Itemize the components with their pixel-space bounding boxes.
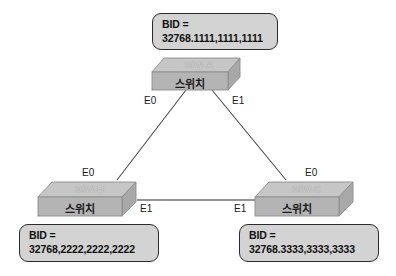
bid-value-a: 32768.1111,1111,1111 — [162, 32, 269, 46]
bid-label-a: BID = — [162, 18, 269, 32]
bid-box-switch-a: BID = 32768.1111,1111,1111 — [152, 13, 278, 50]
port-label-a-e1: E1 — [232, 95, 244, 106]
switch-c[interactable]: S/W-C 스위치 — [253, 180, 355, 220]
bid-box-switch-c: BID = 32768.3333,3333,3333 — [239, 224, 379, 262]
switch-c-front-label: 스위치 — [255, 200, 339, 216]
bid-box-switch-b: BID = 32768,2222,2222,2222 — [19, 224, 159, 262]
switch-a[interactable]: S/W-A 스위치 — [150, 56, 242, 94]
port-label-c-e0: E0 — [305, 167, 317, 178]
switch-a-top-label: S/W-A — [156, 59, 242, 70]
bid-value-c: 32768.3333,3333,3333 — [249, 243, 370, 257]
network-diagram-canvas: BID = 32768.1111,1111,1111 S/W-A 스위치 E0 … — [0, 0, 396, 276]
port-label-c-e1: E1 — [234, 203, 246, 214]
switch-a-front-label: 스위치 — [152, 75, 228, 91]
switch-b-front-label: 스위치 — [38, 200, 122, 216]
bid-label-c: BID = — [249, 229, 370, 243]
port-label-a-e0: E0 — [144, 95, 156, 106]
port-label-b-e1: E1 — [140, 203, 152, 214]
switch-c-top-label: S/W-C — [261, 183, 353, 194]
port-label-b-e0: E0 — [82, 167, 94, 178]
bid-value-b: 32768,2222,2222,2222 — [29, 243, 150, 257]
link-a-e1-to-c-e0 — [212, 90, 286, 180]
switch-b[interactable]: S/W-B 스위치 — [36, 180, 138, 220]
bid-label-b: BID = — [29, 229, 150, 243]
switch-b-top-label: S/W-B — [44, 183, 136, 194]
